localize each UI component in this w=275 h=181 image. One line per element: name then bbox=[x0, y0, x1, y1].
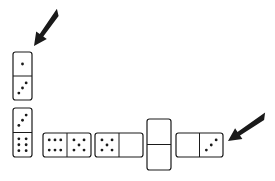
domino-top-vertical bbox=[13, 52, 32, 100]
pip bbox=[25, 114, 28, 117]
pip bbox=[54, 139, 57, 142]
pip bbox=[48, 139, 51, 142]
pip bbox=[111, 149, 114, 152]
domino-diagram bbox=[0, 0, 275, 181]
pip bbox=[25, 143, 28, 146]
pip bbox=[59, 139, 62, 142]
arrow-shape bbox=[228, 113, 265, 141]
arrow-top-icon bbox=[34, 9, 59, 46]
arrow-right-icon bbox=[228, 113, 265, 141]
pip bbox=[21, 63, 24, 66]
pip bbox=[73, 149, 76, 152]
domino-horizontal-5-0 bbox=[95, 133, 143, 157]
pip bbox=[17, 137, 20, 140]
pip bbox=[106, 144, 109, 147]
pip bbox=[101, 139, 104, 142]
domino-vertical-0-0 bbox=[147, 119, 171, 170]
pip bbox=[83, 139, 86, 142]
pip bbox=[17, 124, 20, 127]
pip bbox=[73, 139, 76, 142]
pip bbox=[25, 137, 28, 140]
pip bbox=[59, 149, 62, 152]
pip bbox=[210, 144, 213, 147]
pip bbox=[17, 92, 20, 95]
pip bbox=[17, 149, 20, 152]
pip bbox=[25, 82, 28, 85]
pip bbox=[205, 149, 208, 152]
pip bbox=[21, 119, 24, 122]
domino-horizontal-6-5 bbox=[43, 133, 91, 157]
pip bbox=[25, 149, 28, 152]
domino-horizontal-0-3 bbox=[176, 133, 223, 157]
pip bbox=[21, 87, 24, 90]
pip bbox=[111, 139, 114, 142]
pip bbox=[17, 143, 20, 146]
pip bbox=[48, 149, 51, 152]
domino-bottom-vertical bbox=[13, 108, 32, 157]
pip bbox=[101, 149, 104, 152]
arrow-shape bbox=[34, 9, 59, 46]
pip bbox=[54, 149, 57, 152]
pip bbox=[78, 144, 81, 147]
pip bbox=[215, 139, 218, 142]
pip bbox=[83, 149, 86, 152]
